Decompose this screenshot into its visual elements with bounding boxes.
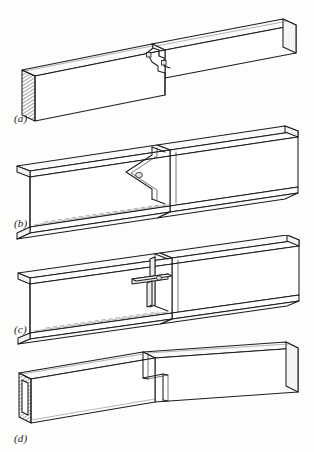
panel-c-label: (c) — [14, 323, 27, 335]
vee-pin-hole — [136, 172, 143, 177]
bolt-square-1 — [147, 53, 152, 58]
panel-d-drawing — [0, 340, 314, 452]
figure-root: (a) — [0, 0, 314, 452]
tee-stub-bolt — [156, 276, 161, 280]
right-beam-end-face — [283, 19, 296, 53]
panel-d-label: (d) — [14, 432, 27, 444]
right-box-side-face — [155, 348, 298, 402]
panel-b: (b) — [0, 125, 314, 240]
left-box-cavity — [22, 380, 28, 415]
panel-a-drawing — [0, 0, 314, 130]
right-box-end-face — [286, 342, 298, 392]
panel-c-drawing — [0, 235, 314, 347]
panel-a: (a) — [0, 0, 314, 130]
panel-d: (d) — [0, 340, 314, 452]
panel-b-drawing — [0, 125, 314, 240]
bolt-square-2 — [162, 61, 167, 66]
tee-stub-lower-leg — [147, 281, 152, 307]
panel-b-label: (b) — [14, 217, 27, 229]
panel-c: (c) — [0, 235, 314, 347]
panel-a-label: (a) — [14, 112, 27, 124]
